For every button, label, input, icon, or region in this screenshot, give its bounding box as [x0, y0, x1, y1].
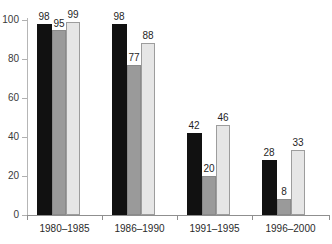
bar-g3-s1 — [277, 199, 291, 215]
bar-g3-s2 — [291, 150, 305, 215]
x-category-label-0: 1980–1985 — [27, 224, 102, 234]
bar-label-g1-s0: 98 — [108, 12, 130, 22]
x-category-label-1: 1986–1990 — [102, 224, 177, 234]
x-category-label-3: 1996–2000 — [252, 224, 329, 234]
bar-g2-s0 — [187, 133, 202, 215]
bar-g0-s0 — [37, 24, 52, 215]
bar-label-g1-s1: 77 — [123, 53, 145, 63]
bar-g0-s1 — [52, 30, 66, 215]
bar-label-g0-s2: 99 — [62, 10, 84, 20]
bar-g0-s2 — [66, 22, 80, 215]
bar-chart: 100 80 60 40 20 0 98 95 99 98 77 88 42 2… — [0, 0, 332, 244]
bar-label-g0-s1: 95 — [48, 19, 70, 29]
bar-g1-s2 — [141, 43, 155, 215]
bar-label-g2-s0: 42 — [183, 121, 205, 131]
bar-g1-s1 — [127, 65, 141, 215]
bar-label-g2-s2: 46 — [212, 113, 234, 123]
plot-area: 98 95 99 98 77 88 42 20 46 28 8 33 — [0, 0, 332, 244]
bar-label-g3-s2: 33 — [287, 138, 309, 148]
bar-g2-s1 — [202, 176, 216, 215]
x-category-label-2: 1991–1995 — [177, 224, 252, 234]
bar-label-g3-s1: 8 — [273, 187, 295, 197]
bar-label-g3-s0: 28 — [258, 148, 280, 158]
bar-label-g1-s2: 88 — [137, 31, 159, 41]
bar-label-g2-s1: 20 — [198, 164, 220, 174]
